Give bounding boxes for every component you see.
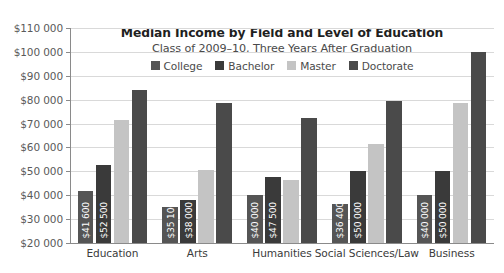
bar: $38 000 [180, 200, 196, 243]
bar-value-label: $41 600 [80, 202, 91, 239]
bar [198, 170, 214, 243]
chart-container: Median Income by Field and Level of Educ… [0, 0, 504, 273]
bar [283, 180, 299, 243]
bar-value-label: $50 000 [352, 202, 363, 239]
bar [301, 118, 317, 243]
bar-value-label: $40 000 [419, 202, 430, 239]
y-axis-tick-label: $20 000 [20, 237, 63, 249]
y-axis-line [70, 28, 71, 243]
x-axis-tick-label: Humanities [252, 247, 311, 259]
bar: $50 000 [350, 171, 366, 243]
x-axis-line [70, 243, 494, 244]
y-axis-tick-label: $50 000 [20, 165, 63, 177]
bar-group: $35 100$38 000 [155, 28, 240, 243]
bar-group: $40 000$47 500 [240, 28, 325, 243]
bar [114, 120, 130, 243]
x-axis-tick-label: Arts [187, 247, 208, 259]
bar [368, 144, 384, 243]
y-axis-tick-label: $80 000 [20, 94, 63, 106]
y-axis-tick-label: $30 000 [20, 213, 63, 225]
bar-group: $36 400$50 000 [324, 28, 409, 243]
x-axis-tick-label: Social Sciences/Law [315, 247, 419, 259]
y-axis-tick-label: $110 000 [14, 22, 63, 34]
bar: $52 500 [96, 165, 112, 243]
bar-group: $40 000$50 000 [409, 28, 494, 243]
bar-value-label: $47 500 [267, 202, 278, 239]
y-axis-tick-label: $70 000 [20, 118, 63, 130]
bar: $36 400 [332, 204, 348, 243]
bar-group: $41 600$52 500 [70, 28, 155, 243]
bar-value-label: $40 000 [249, 202, 260, 239]
y-axis-tick-label: $90 000 [20, 70, 63, 82]
bar [453, 103, 469, 243]
bar: $40 000 [417, 195, 433, 243]
bar-value-label: $35 100 [165, 202, 176, 239]
x-axis-tick-label: Business [429, 247, 475, 259]
bar [386, 101, 402, 243]
bar [132, 90, 148, 243]
bar: $40 000 [247, 195, 263, 243]
bar-value-label: $52 500 [98, 202, 109, 239]
y-axis-tick-label: $40 000 [20, 189, 63, 201]
bar: $35 100 [162, 207, 178, 243]
x-axis-tick-label: Education [86, 247, 138, 259]
plot-area: $110 000$100 000$90 000$80 000$70 000$60… [70, 28, 494, 243]
y-axis-tick-label: $100 000 [14, 46, 63, 58]
y-axis-tick-label: $60 000 [20, 141, 63, 153]
bar-value-label: $36 400 [334, 202, 345, 239]
bar: $47 500 [265, 177, 281, 243]
bars-layer: $41 600$52 500$35 100$38 000$40 000$47 5… [70, 28, 494, 243]
bar-value-label: $50 000 [437, 202, 448, 239]
bar [471, 52, 487, 243]
bar [216, 103, 232, 243]
bar: $50 000 [435, 171, 451, 243]
bar: $41 600 [78, 191, 94, 243]
bar-value-label: $38 000 [183, 202, 194, 239]
